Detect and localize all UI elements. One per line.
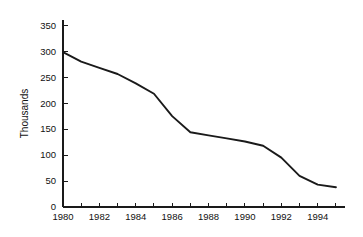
y-tick-label: 150 (40, 123, 56, 134)
y-tick-label: 300 (40, 46, 56, 57)
x-tick-label: 1984 (125, 211, 146, 222)
line-chart: 050100150200250300350 198019821984198619… (0, 0, 363, 237)
x-tick-label: 1986 (162, 211, 183, 222)
chart-container: 050100150200250300350 198019821984198619… (0, 0, 363, 237)
y-tick-label: 350 (40, 20, 56, 31)
y-tick-label: 250 (40, 72, 56, 83)
y-tick-label: 200 (40, 98, 56, 109)
x-tick-label: 1994 (307, 211, 328, 222)
x-tick-label: 1982 (89, 211, 110, 222)
x-tick-label: 1988 (198, 211, 219, 222)
x-tick-label: 1992 (271, 211, 292, 222)
y-tick-label: 100 (40, 149, 56, 160)
x-tick-label: 1990 (234, 211, 255, 222)
x-tick-label: 1980 (52, 211, 73, 222)
y-tick-label: 50 (45, 175, 56, 186)
y-axis-title: Thousands (19, 89, 30, 138)
